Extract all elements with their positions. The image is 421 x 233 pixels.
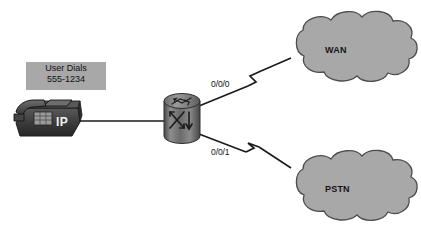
link-line-router-pstn-lower xyxy=(259,147,291,168)
serial-zigzag-icon-wan xyxy=(248,71,261,86)
serial-zigzag-icon-pstn xyxy=(246,143,259,152)
callout-line-1: User Dials xyxy=(26,63,106,74)
phone-keypad xyxy=(34,112,52,125)
interface-label-pstn: 0/0/1 xyxy=(211,147,229,157)
router-icon[interactable] xyxy=(164,94,200,144)
router-top xyxy=(164,94,200,109)
phone-handset-earpiece xyxy=(14,114,24,121)
callout-line-2: 555-1234 xyxy=(26,74,106,85)
cloud-wan-shape xyxy=(296,11,417,81)
network-diagram: User Dials 555-1234 IP 0/0/0 0/0/1 WAN P… xyxy=(0,0,421,233)
cloud-pstn[interactable] xyxy=(296,150,417,220)
interface-label-wan: 0/0/0 xyxy=(211,79,229,89)
user-dials-callout-text: User Dials 555-1234 xyxy=(26,63,106,85)
phone-ip-badge: IP xyxy=(56,115,68,129)
ip-phone-icon[interactable] xyxy=(14,100,82,136)
cloud-wan[interactable] xyxy=(296,11,417,81)
link-line-router-wan-upper xyxy=(261,58,291,71)
cloud-pstn-shape xyxy=(296,150,417,220)
cloud-label-wan: WAN xyxy=(325,45,347,56)
cloud-label-pstn: PSTN xyxy=(325,184,350,195)
